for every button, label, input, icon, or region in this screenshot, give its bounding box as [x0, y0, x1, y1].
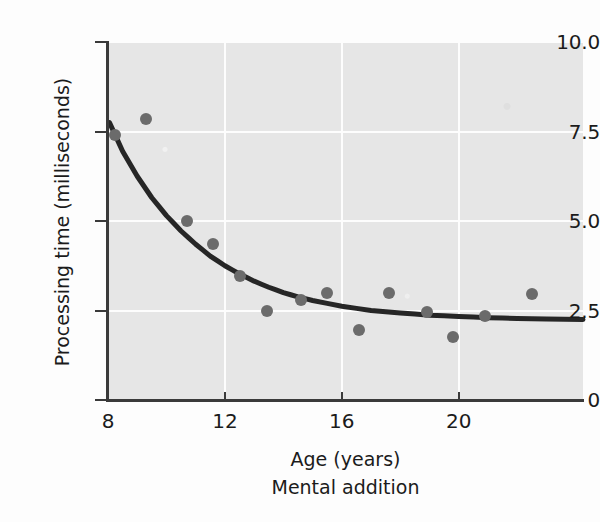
plot-caption: Mental addition [108, 476, 583, 498]
x-axis-tick [341, 392, 343, 402]
y-axis-tick-label: 0 [514, 390, 600, 410]
data-point [234, 270, 246, 282]
x-axis-tick-label: 16 [312, 410, 372, 432]
x-axis-title: Age (years) [108, 448, 583, 470]
y-axis-tick [95, 220, 107, 222]
data-point [140, 113, 152, 125]
y-axis-tick-label: 10.0 [514, 32, 600, 52]
y-axis-title: Processing time (milliseconds) [52, 42, 72, 402]
data-point [479, 310, 491, 322]
x-axis-tick-label: 20 [429, 410, 489, 432]
y-axis-tick [95, 399, 107, 401]
x-axis-tick-label: 8 [78, 410, 138, 432]
data-point [181, 215, 193, 227]
y-axis-tick [95, 41, 107, 43]
chart-figure: 02.55.07.510.0 8121620 Processing time (… [0, 0, 600, 522]
x-axis-tick [224, 392, 226, 402]
fit-curve [108, 42, 583, 400]
y-axis-tick-label: 7.5 [514, 122, 600, 142]
x-axis-tick [107, 392, 109, 402]
x-axis-tick [458, 392, 460, 402]
y-axis-tick-label: 5.0 [514, 211, 600, 231]
x-axis-line [106, 399, 584, 402]
data-point [421, 306, 433, 318]
y-axis-tick [95, 131, 107, 133]
data-point [261, 305, 273, 317]
data-point [383, 287, 395, 299]
data-point [321, 287, 333, 299]
y-axis-tick [95, 310, 107, 312]
x-axis-tick-label: 12 [195, 410, 255, 432]
data-point [295, 294, 307, 306]
y-axis-tick-label: 2.5 [514, 301, 600, 321]
